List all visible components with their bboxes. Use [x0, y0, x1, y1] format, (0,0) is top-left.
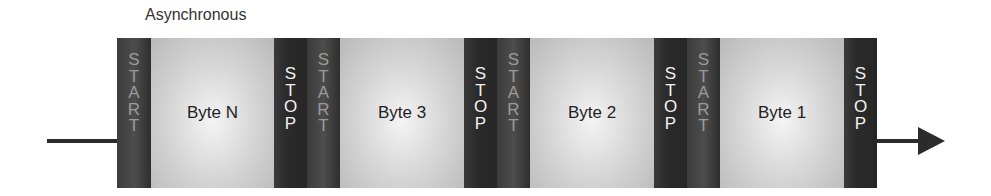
byte-2: Byte 2: [530, 38, 654, 188]
byte-1: Byte 1: [720, 38, 844, 188]
output-line: [877, 139, 923, 143]
stop-bit-1: STOP: [274, 38, 307, 188]
start-bit-1: START: [117, 38, 151, 188]
stop-bit-2: STOP: [464, 38, 497, 188]
start-bit-3: START: [497, 38, 530, 188]
start-bit-4: START: [687, 38, 720, 188]
byte-n: Byte N: [151, 38, 274, 188]
stop-bit-4: STOP: [844, 38, 877, 188]
byte-3: Byte 3: [340, 38, 464, 188]
arrow-right-icon: [918, 127, 946, 155]
start-bit-2: START: [307, 38, 340, 188]
stop-bit-3: STOP: [654, 38, 687, 188]
input-line: [47, 139, 117, 143]
diagram-title: Asynchronous: [145, 6, 246, 24]
